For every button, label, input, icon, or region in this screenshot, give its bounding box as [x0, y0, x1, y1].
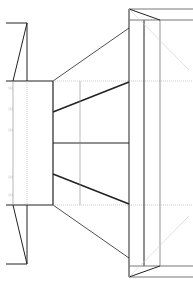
left-flange-top [6, 23, 27, 81]
technical-drawing [0, 0, 193, 286]
side-mark: [1] [8, 86, 13, 90]
side-mark: [1] [8, 107, 13, 111]
body-outline [6, 81, 129, 205]
side-mark: [1] [8, 175, 13, 179]
side-mark: [1] [8, 193, 13, 197]
construction-lines [129, 9, 189, 277]
right-flange [129, 9, 193, 277]
left-flange-bottom [6, 205, 27, 264]
side-mark: [1] [8, 128, 13, 132]
